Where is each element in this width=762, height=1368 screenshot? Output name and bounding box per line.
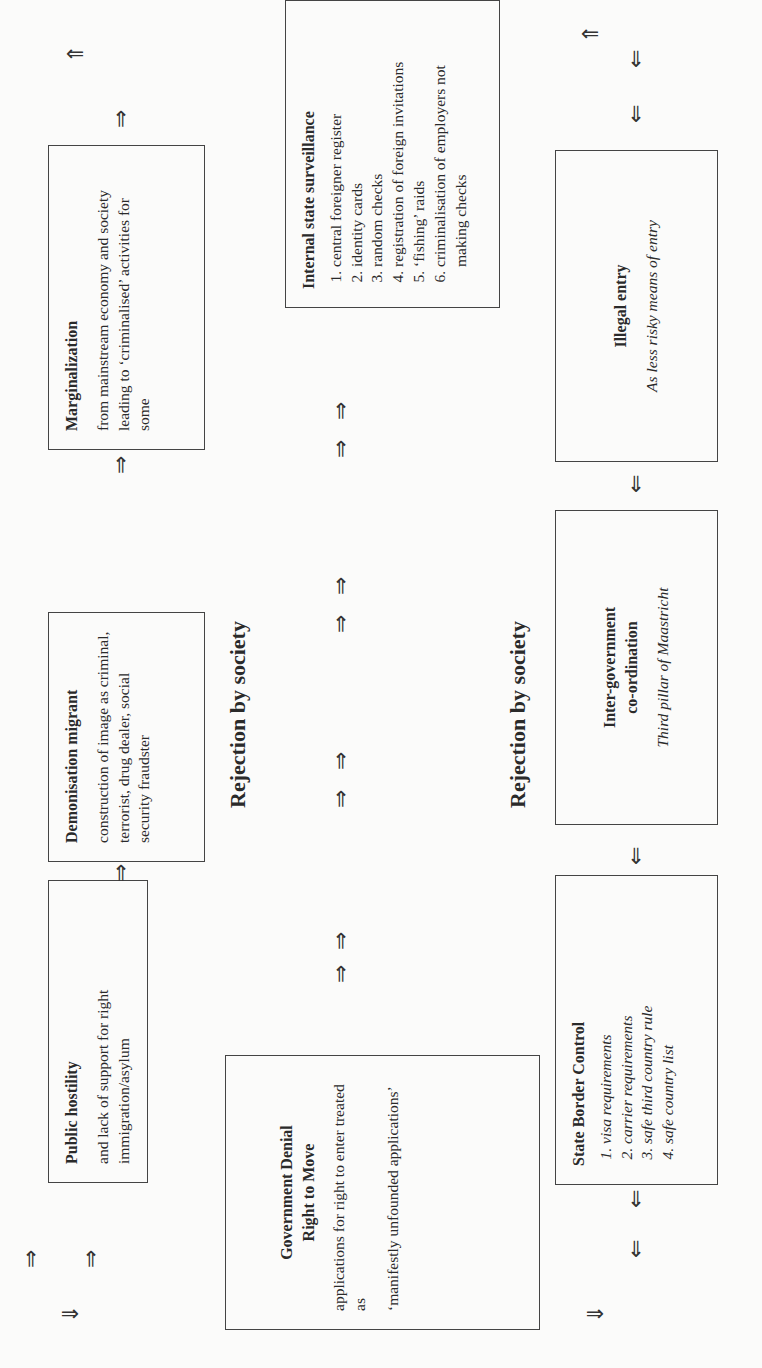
diagram-canvas: ⇓ ⇒ ⇒ Public hostility and lack of suppo…: [0, 0, 762, 1368]
box-public-hostility: Public hostility and lack of support for…: [48, 880, 148, 1183]
arrow-left-icon: ⇐: [625, 50, 647, 68]
arrow-right-icon: ⇒: [20, 1250, 42, 1268]
box-inter-government-coordination: Inter-government co-ordination Third pil…: [555, 510, 718, 825]
arrow-left-icon: ⇐: [625, 847, 647, 865]
list-item: visa requirements: [596, 894, 617, 1144]
box-demonisation-migrant: Demonisation migrant construction of ima…: [48, 612, 205, 862]
surveillance-list: central foreigner register identity card…: [326, 19, 472, 289]
arrow-right-icon: ⇒: [330, 965, 352, 983]
arrow-up-icon: ⇑: [580, 25, 602, 43]
box-body-1: applications for right to enter treated …: [329, 1074, 371, 1311]
box-body: As less risky means of entry: [642, 169, 663, 443]
box-title: Marginalization: [61, 164, 83, 431]
box-title: State Border Control: [568, 894, 590, 1166]
box-body: construction of image as criminal, terro…: [93, 631, 156, 843]
box-title: Internal state surveillance: [298, 19, 320, 289]
list-item: criminalisation of employers not making …: [430, 19, 472, 267]
arrow-right-icon: ⇒: [330, 790, 352, 808]
arrow-right-icon: ⇒: [80, 1250, 102, 1268]
arrow-right-icon: ⇒: [330, 402, 352, 420]
arrow-left-icon: ⇐: [625, 1190, 647, 1208]
box-marginalization: Marginalization from mainstream economy …: [48, 145, 205, 450]
box-title-line-1: Inter-government: [599, 529, 621, 806]
box-state-border-control: State Border Control visa requirements c…: [555, 875, 718, 1185]
label-rejection-by-society: Rejection by society: [225, 621, 251, 808]
list-item: random checks: [367, 19, 388, 267]
box-body: Third pillar of Maastricht: [653, 529, 674, 806]
arrow-left-icon: ⇐: [625, 475, 647, 493]
box-internal-state-surveillance: Internal state surveillance central fore…: [285, 0, 500, 308]
list-item: safe country list: [658, 894, 679, 1144]
arrow-down-icon: ⇓: [60, 1305, 82, 1323]
list-item: central foreigner register: [326, 19, 347, 267]
arrow-right-icon: ⇒: [330, 932, 352, 950]
box-title: Illegal entry: [610, 169, 632, 443]
box-title-line-1: Government Denial: [276, 1074, 298, 1311]
list-item: ‘fishing’ raids: [409, 19, 430, 267]
arrow-up-icon: ⇑: [65, 45, 87, 63]
arrow-left-icon: ⇐: [625, 105, 647, 123]
arrow-left-icon: ⇐: [625, 1240, 647, 1258]
list-item: identity cards: [347, 19, 368, 267]
arrow-right-icon: ⇒: [110, 110, 132, 128]
box-body-2: ‘manifestly unfounded applications’: [383, 1074, 404, 1311]
box-title-line-2: Right to Move: [298, 1074, 320, 1311]
border-control-list: visa requirements carrier requirements s…: [596, 894, 680, 1166]
arrow-right-icon: ⇒: [330, 577, 352, 595]
box-title-line-2: co-ordination: [621, 529, 643, 806]
list-item: safe third country rule: [637, 894, 658, 1144]
arrow-down-icon: ⇓: [585, 1305, 607, 1323]
arrow-right-icon: ⇒: [330, 440, 352, 458]
arrow-right-icon: ⇒: [110, 456, 132, 474]
box-government-denial: Government Denial Right to Move applicat…: [225, 1055, 540, 1330]
box-body: from mainstream economy and society lead…: [93, 164, 156, 431]
box-body: and lack of support for right immigratio…: [93, 899, 135, 1164]
list-item: carrier requirements: [617, 894, 638, 1144]
arrow-right-icon: ⇒: [330, 615, 352, 633]
box-title: Demonisation migrant: [61, 631, 83, 843]
arrow-right-icon: ⇒: [110, 864, 132, 882]
label-rejection-by-society: Rejection by society: [505, 621, 531, 808]
box-illegal-entry: Illegal entry As less risky means of ent…: [555, 150, 718, 462]
arrow-right-icon: ⇒: [330, 752, 352, 770]
box-title: Public hostility: [61, 899, 83, 1164]
list-item: registration of foreign invitations: [388, 19, 409, 267]
